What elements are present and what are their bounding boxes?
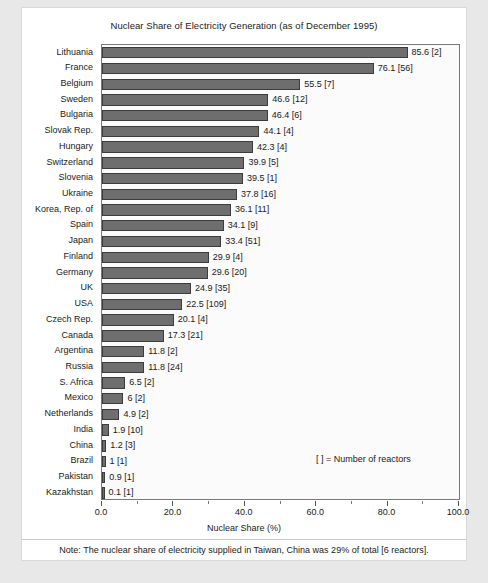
bar [102, 267, 208, 278]
bar [102, 299, 182, 310]
category-label: Mexico [0, 392, 93, 402]
bar-row: Bulgaria46.4 [6] [102, 108, 459, 124]
category-label: Russia [0, 361, 93, 371]
x-axis-title: Nuclear Share (%) [22, 523, 466, 533]
bar [102, 236, 221, 247]
bar-row: Slovak Rep.44.1 [4] [102, 124, 459, 140]
bar-value-label: 6.5 [2] [125, 377, 154, 387]
bar [102, 110, 268, 121]
category-label: S. Africa [0, 377, 93, 387]
bar-value-label: 44.1 [4] [259, 126, 293, 136]
bar-value-label: 6 [2] [123, 393, 145, 403]
bar-value-label: 42.3 [4] [253, 142, 287, 152]
category-label: Netherlands [0, 408, 93, 418]
bar-value-label: 1.9 [10] [109, 425, 143, 435]
bar [102, 424, 109, 435]
x-axis-minor-tick [208, 501, 209, 504]
bar-row: Russia11.8 [24] [102, 359, 459, 375]
bar-value-label: 76.1 [56] [374, 63, 413, 73]
x-axis-tick-label: 100.0 [447, 507, 470, 517]
bar-row: China1.2 [3] [102, 438, 459, 454]
bar-value-label: 11.8 [2] [144, 346, 177, 356]
bar-value-label: 17.3 [21] [164, 330, 203, 340]
bar [102, 283, 191, 294]
bar-value-label: 0.9 [1] [105, 472, 134, 482]
bar-value-label: 46.6 [12] [268, 94, 307, 104]
legend-annotation: [ ] = Number of reactors [316, 454, 411, 464]
bar [102, 330, 164, 341]
category-label: Argentina [0, 345, 93, 355]
category-label: UK [0, 282, 93, 292]
bar [102, 362, 144, 373]
bar [102, 346, 144, 357]
bar-value-label: 1.2 [3] [106, 440, 135, 450]
x-axis-tick [458, 501, 459, 506]
category-label: Czech Rep. [0, 314, 93, 324]
bar-value-label: 4.9 [2] [119, 409, 148, 419]
footnote-divider [22, 539, 466, 540]
bar-row: Canada17.3 [21] [102, 328, 459, 344]
x-axis-tick-label: 40.0 [235, 507, 253, 517]
x-axis-tick [244, 501, 245, 506]
bar-row: Finland29.9 [4] [102, 249, 459, 265]
bar-row: Korea, Rep. of36.1 [11] [102, 202, 459, 218]
category-label: Belgium [0, 78, 93, 88]
category-label: Pakistan [0, 471, 93, 481]
category-label: Canada [0, 330, 93, 340]
bar-row: Lithuania85.6 [2] [102, 45, 459, 61]
bar-row: Argentina11.8 [2] [102, 344, 459, 360]
bar-row: France76.1 [56] [102, 61, 459, 77]
category-label: Bulgaria [0, 109, 93, 119]
x-axis-tick [387, 501, 388, 506]
bar [102, 47, 408, 58]
category-label: France [0, 62, 93, 72]
bar [102, 157, 244, 168]
bar [102, 141, 253, 152]
x-axis-minor-tick [422, 501, 423, 504]
x-axis-tick-label: 60.0 [306, 507, 324, 517]
bar-row: Netherlands4.9 [2] [102, 407, 459, 423]
bar-value-label: 22.5 [109] [182, 299, 226, 309]
plot-area: Lithuania85.6 [2]France76.1 [56]Belgium5… [101, 44, 460, 500]
bar-row: Kazakhstan0.1 [1] [102, 485, 459, 501]
category-label: Ukraine [0, 188, 93, 198]
bar [102, 79, 300, 90]
bar-value-label: 29.9 [4] [209, 252, 243, 262]
category-label: Korea, Rep. of [0, 204, 93, 214]
category-label: Sweden [0, 94, 93, 104]
bar-row: Belgium55.5 [7] [102, 76, 459, 92]
x-axis-minor-tick [280, 501, 281, 504]
category-label: Switzerland [0, 157, 93, 167]
bar-value-label: 1 [1] [106, 456, 128, 466]
bar [102, 94, 268, 105]
bar-value-label: 0.1 [1] [105, 487, 134, 497]
x-axis-tick-label: 0.0 [95, 507, 108, 517]
x-axis-tick [315, 501, 316, 506]
category-label: USA [0, 298, 93, 308]
bar-value-label: 34.1 [9] [224, 220, 258, 230]
page-background: Nuclear Share of Electricity Generation … [0, 0, 488, 583]
category-label: Japan [0, 235, 93, 245]
x-axis-tick-label: 80.0 [378, 507, 396, 517]
bar-row: Hungary42.3 [4] [102, 139, 459, 155]
bar [102, 220, 224, 231]
bar-value-label: 55.5 [7] [300, 79, 334, 89]
bar-row: Sweden46.6 [12] [102, 92, 459, 108]
chart-card: Nuclear Share of Electricity Generation … [22, 8, 466, 560]
bar-value-label: 29.6 [20] [208, 267, 247, 277]
bar [102, 314, 174, 325]
bar-value-label: 24.9 [35] [191, 283, 230, 293]
x-axis: 0.020.040.060.080.0100.0 [101, 501, 460, 523]
chart-footnote: Note: The nuclear share of electricity s… [22, 545, 466, 555]
category-label: Finland [0, 251, 93, 261]
bar [102, 377, 125, 388]
bar [102, 393, 123, 404]
bar-row: USA22.5 [109] [102, 297, 459, 313]
bar-row: Japan33.4 [51] [102, 234, 459, 250]
category-label: India [0, 424, 93, 434]
bar-row: Mexico6 [2] [102, 391, 459, 407]
bar [102, 252, 209, 263]
bar-row: India1.9 [10] [102, 422, 459, 438]
bar-value-label: 37.8 [16] [237, 189, 276, 199]
category-label: Kazakhstan [0, 487, 93, 497]
